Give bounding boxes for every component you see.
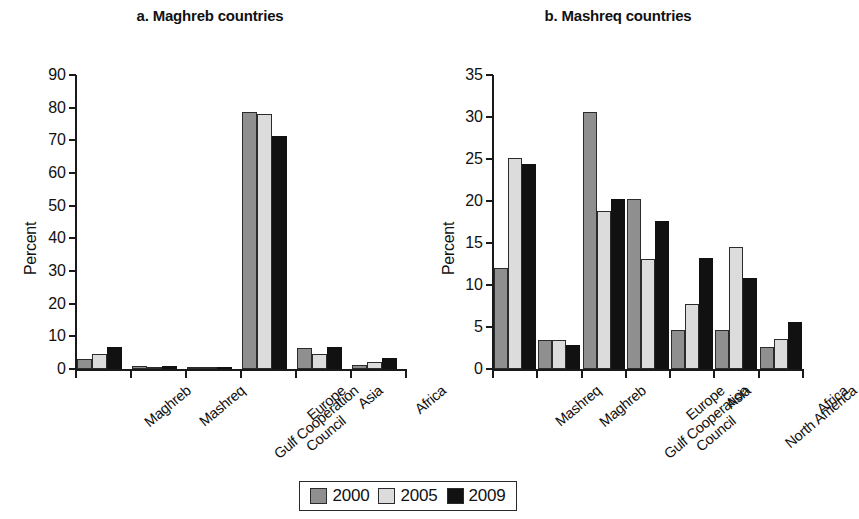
bar-2000-asia	[297, 348, 312, 369]
panel-b-x-tick-mark	[713, 371, 715, 378]
bar-2009-africa	[788, 322, 802, 369]
panel-a-bars-area	[75, 75, 405, 369]
panel-b-x-tick-mark	[492, 371, 494, 378]
bar-group	[758, 75, 804, 369]
bar-2005-asia	[312, 354, 327, 369]
panel-a-y-tick-20: 20	[48, 296, 66, 312]
panel-a-y-tick-mark	[69, 172, 76, 174]
panel-b-y-tick-mark	[486, 242, 493, 244]
legend-item-2005: 2005	[378, 486, 437, 506]
panel-b-y-tick-15: 15	[465, 235, 483, 251]
bar-group	[581, 75, 627, 369]
panel-a-title: a. Maghreb countries	[0, 0, 420, 27]
bar-group	[350, 75, 407, 369]
panel-b-y-tick-mark	[486, 368, 493, 370]
bar-2005-north-america	[729, 247, 743, 369]
bar-2000-mashreq	[494, 268, 508, 369]
legend-label: 2009	[469, 486, 506, 506]
bar-2009-mashreq	[522, 164, 536, 369]
bar-2009-gulf-cooperation-council	[611, 199, 625, 369]
bar-2005-maghreb	[92, 354, 107, 369]
panel-a-x-tick-mark	[350, 371, 352, 378]
bar-2005-europe	[257, 114, 272, 369]
bar-2005-africa	[367, 362, 382, 369]
panel-a-x-tick-mark	[240, 371, 242, 378]
bar-2005-europe	[641, 259, 655, 369]
panel-a-y-axis-label: Percent	[22, 222, 40, 275]
panel-a-y-tick-mark	[69, 368, 76, 370]
panel-a-y-tick-mark	[69, 303, 76, 305]
panel-a-y-tick-mark	[69, 139, 76, 141]
panel-a-y-tick-30: 30	[48, 263, 66, 279]
panel-b-x-tick-mark	[536, 371, 538, 378]
bar-2000-north-america	[715, 330, 729, 369]
panel-b-y-tick-5: 5	[474, 319, 483, 335]
panel-mashreq: b. Mashreq countries Percent 05101520253…	[420, 0, 816, 462]
panel-a-y-tick-70: 70	[48, 132, 66, 148]
panel-a-y-tick-mark	[69, 335, 76, 337]
bar-2009-maghreb	[566, 345, 580, 369]
legend-item-2009: 2009	[447, 486, 506, 506]
legend-swatch-2005	[378, 488, 395, 504]
panel-a-y-tick-mark	[69, 205, 76, 207]
bar-2000-africa	[760, 347, 774, 369]
panel-a-y-tick-90: 90	[48, 67, 66, 83]
bar-group	[240, 75, 297, 369]
legend-swatch-2009	[447, 488, 464, 504]
legend-label: 2005	[400, 486, 437, 506]
x-tick-label: Mashreq	[196, 383, 247, 430]
x-tick-label: Maghreb	[597, 383, 649, 430]
panel-b-y-tick-mark	[486, 284, 493, 286]
panel-a-x-tick-mark	[130, 371, 132, 378]
panel-b-y-tick-mark	[486, 200, 493, 202]
panel-a-y-tick-mark	[69, 237, 76, 239]
bar-2005-mashreq	[508, 158, 522, 369]
panel-a-y-tick-80: 80	[48, 100, 66, 116]
panel-b-title: b. Mashreq countries	[420, 0, 816, 27]
panel-b-x-tick-mark	[758, 371, 760, 378]
bar-group	[492, 75, 538, 369]
panel-b-y-tick-0: 0	[474, 361, 483, 377]
panel-a-x-tick-mark	[75, 371, 77, 378]
panel-b-y-tick-20: 20	[465, 193, 483, 209]
chart-legend: 200020052009	[0, 481, 816, 511]
bar-2009-europe	[655, 221, 669, 369]
bar-group	[185, 75, 242, 369]
bar-group	[295, 75, 352, 369]
bar-group	[536, 75, 582, 369]
panel-a-x-tick-mark	[185, 371, 187, 378]
panel-b-bars-area	[492, 75, 802, 369]
panel-b-x-tick-mark	[581, 371, 583, 378]
legend-box: 200020052009	[299, 481, 516, 511]
bar-group	[669, 75, 715, 369]
panel-b-x-tick-mark	[625, 371, 627, 378]
bar-group	[713, 75, 759, 369]
panels-container: a. Maghreb countries Percent 01020304050…	[0, 0, 816, 462]
panel-b-y-tick-mark	[486, 158, 493, 160]
panel-b-y-tick-mark	[486, 74, 493, 76]
legend-swatch-2000	[310, 488, 327, 504]
panel-b-y-tick-30: 30	[465, 109, 483, 125]
legend-label: 2000	[332, 486, 369, 506]
panel-a-y-tick-mark	[69, 107, 76, 109]
panel-b-y-tick-35: 35	[465, 67, 483, 83]
bar-2005-asia	[685, 304, 699, 369]
panel-b-x-tick-mark	[802, 371, 804, 378]
bar-2000-europe	[627, 199, 641, 369]
x-tick-label: Maghreb	[141, 383, 193, 430]
panel-b-x-tick-mark	[669, 371, 671, 378]
bar-2009-europe	[272, 136, 287, 369]
panel-b-y-tick-25: 25	[465, 151, 483, 167]
panel-a-y-tick-0: 0	[57, 361, 66, 377]
panel-a-y-tick-mark	[69, 74, 76, 76]
bar-2000-maghreb	[538, 340, 552, 369]
panel-b-y-tick-10: 10	[465, 277, 483, 293]
bar-2000-asia	[671, 330, 685, 369]
panel-b-y-tick-mark	[486, 326, 493, 328]
bar-2009-africa	[382, 358, 397, 369]
bar-group	[625, 75, 671, 369]
bar-2005-gulf-cooperation-council	[597, 211, 611, 369]
bar-2005-africa	[774, 339, 788, 369]
bar-2000-maghreb	[77, 359, 92, 369]
